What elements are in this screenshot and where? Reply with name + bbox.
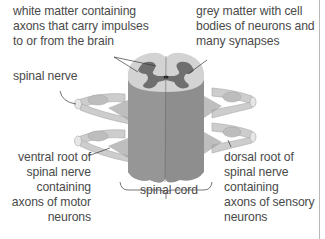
spinal-nerve-label: spinal nerve (13, 69, 78, 84)
spinal-cord-label: spinal cord (140, 183, 198, 198)
white-matter-label: white matter containing axons that carry… (13, 4, 149, 49)
dorsal-root-label: dorsal root of spinal nerve containing a… (224, 150, 315, 225)
grey-matter-label: grey matter with cell bodies of neurons … (196, 4, 315, 49)
ventral-root-label: ventral root of spinal nerve containing … (12, 150, 91, 225)
spinal-cord-body (108, 53, 222, 183)
